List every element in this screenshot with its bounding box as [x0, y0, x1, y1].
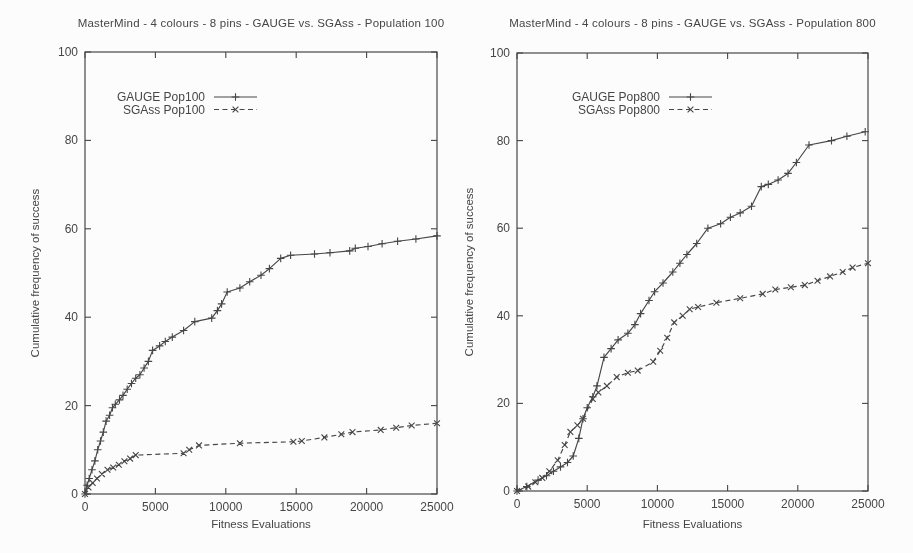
y-tick-label: 100	[58, 45, 78, 59]
y-tick-label: 80	[497, 134, 511, 148]
y-axis-label: Cumulative frequency of success	[29, 188, 41, 357]
y-tick-label: 60	[497, 221, 511, 235]
chart-population-100: 0500010000150002000025000020406080100Mas…	[0, 0, 456, 553]
y-tick-label: 80	[65, 133, 79, 147]
legend-label-sgass-pop100: SGAss Pop100	[123, 103, 205, 117]
series-markers-sgass-pop100	[82, 420, 440, 497]
series-line-sgass-pop800	[517, 263, 868, 491]
series-markers-gauge-pop100	[81, 232, 441, 498]
x-tick-label: 0	[514, 497, 521, 511]
x-axis-label: Fitness Evaluations	[643, 518, 743, 530]
x-tick-label: 20000	[350, 500, 384, 514]
x-tick-label: 0	[82, 500, 89, 514]
x-tick-label: 5000	[574, 497, 601, 511]
x-tick-label: 15000	[711, 497, 745, 511]
legend-sample-marker	[232, 93, 240, 101]
y-tick-label: 40	[65, 310, 79, 324]
y-tick-label: 60	[65, 222, 79, 236]
y-tick-label: 100	[490, 46, 510, 60]
y-tick-label: 0	[503, 484, 510, 498]
chart-title: MasterMind - 4 colours - 8 pins - GAUGE …	[509, 17, 876, 29]
y-tick-label: 20	[65, 399, 79, 413]
y-tick-label: 40	[497, 309, 511, 323]
chart-population-800: 0500010000150002000025000020406080100Mas…	[456, 0, 913, 553]
chart-title: MasterMind - 4 colours - 8 pins - GAUGE …	[78, 17, 445, 29]
y-tick-label: 20	[497, 396, 511, 410]
x-tick-label: 20000	[781, 497, 815, 511]
plot-border	[517, 53, 868, 491]
y-axis-label: Cumulative frequency of success	[463, 187, 475, 356]
line-chart-pop800: 0500010000150002000025000020406080100Mas…	[456, 0, 913, 553]
mastermind-comparison-figure: 0500010000150002000025000020406080100Mas…	[0, 0, 913, 553]
legend-sample-marker	[687, 93, 695, 101]
y-tick-label: 0	[71, 487, 78, 501]
x-tick-label: 15000	[280, 500, 314, 514]
x-tick-label: 10000	[209, 500, 243, 514]
line-chart-pop100: 0500010000150002000025000020406080100Mas…	[0, 0, 456, 553]
x-tick-label: 5000	[142, 500, 169, 514]
x-tick-label: 25000	[420, 500, 454, 514]
series-line-gauge-pop800	[517, 132, 865, 491]
x-tick-label: 25000	[851, 497, 885, 511]
x-axis-label: Fitness Evaluations	[211, 518, 311, 530]
series-markers-gauge-pop800	[513, 128, 869, 495]
series-line-sgass-pop100	[85, 423, 437, 494]
legend-label-sgass-pop800: SGAss Pop800	[578, 103, 660, 117]
x-tick-label: 10000	[641, 497, 675, 511]
